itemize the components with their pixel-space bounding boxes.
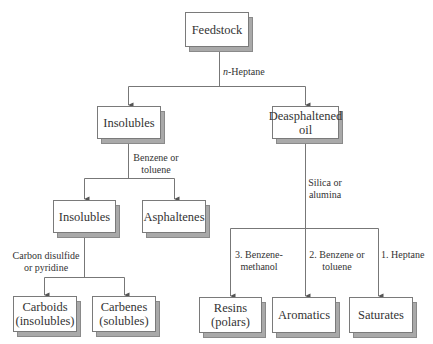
edge-label-benzene-or-toluene: Benzene or toluene bbox=[131, 152, 181, 176]
node-label: Asphaltenes bbox=[142, 200, 206, 233]
edge-label-carbon-disulfide: Carbon disulfide or pyridine bbox=[8, 250, 84, 274]
edge-label-n-heptane: n-Heptane bbox=[223, 66, 265, 78]
node-insolubles-1: Insolubles bbox=[97, 106, 161, 139]
node-label: Resins (polars) bbox=[199, 297, 262, 333]
node-label: Carboids (insolubles) bbox=[13, 296, 77, 332]
node-insolubles-2: Insolubles bbox=[53, 200, 116, 233]
node-label: Saturates bbox=[349, 297, 413, 333]
edge-label-benzene-methanol: 3. Benzene- methanol bbox=[232, 249, 286, 273]
node-aromatics: Aromatics bbox=[272, 297, 336, 333]
node-carboids: Carboids (insolubles) bbox=[13, 296, 77, 332]
node-carbenes: Carbenes (solubles) bbox=[92, 296, 156, 332]
heptane-suffix: -Heptane bbox=[228, 66, 265, 77]
node-resins: Resins (polars) bbox=[199, 297, 262, 333]
node-deasphaltened-oil: Deasphaltened oil bbox=[272, 106, 339, 139]
node-label: Aromatics bbox=[272, 297, 336, 333]
node-feedstock: Feedstock bbox=[185, 12, 249, 47]
node-label: Carbenes (solubles) bbox=[92, 296, 156, 332]
node-label: Deasphaltened oil bbox=[272, 106, 339, 139]
edge-label-silica-or-alumina: Silica or alumina bbox=[307, 177, 343, 201]
edge-label-benzene-or-toluene-2: 2. Benzene or toluene bbox=[306, 249, 368, 273]
edge-label-heptane: 1. Heptane bbox=[381, 249, 424, 261]
node-label: Insolubles bbox=[97, 106, 161, 139]
node-asphaltenes: Asphaltenes bbox=[142, 200, 206, 233]
fractionation-flowchart: Feedstock Insolubles Deasphaltened oil I… bbox=[0, 0, 433, 344]
node-saturates: Saturates bbox=[349, 297, 413, 333]
node-label: Feedstock bbox=[185, 12, 249, 47]
node-label: Insolubles bbox=[53, 200, 116, 233]
